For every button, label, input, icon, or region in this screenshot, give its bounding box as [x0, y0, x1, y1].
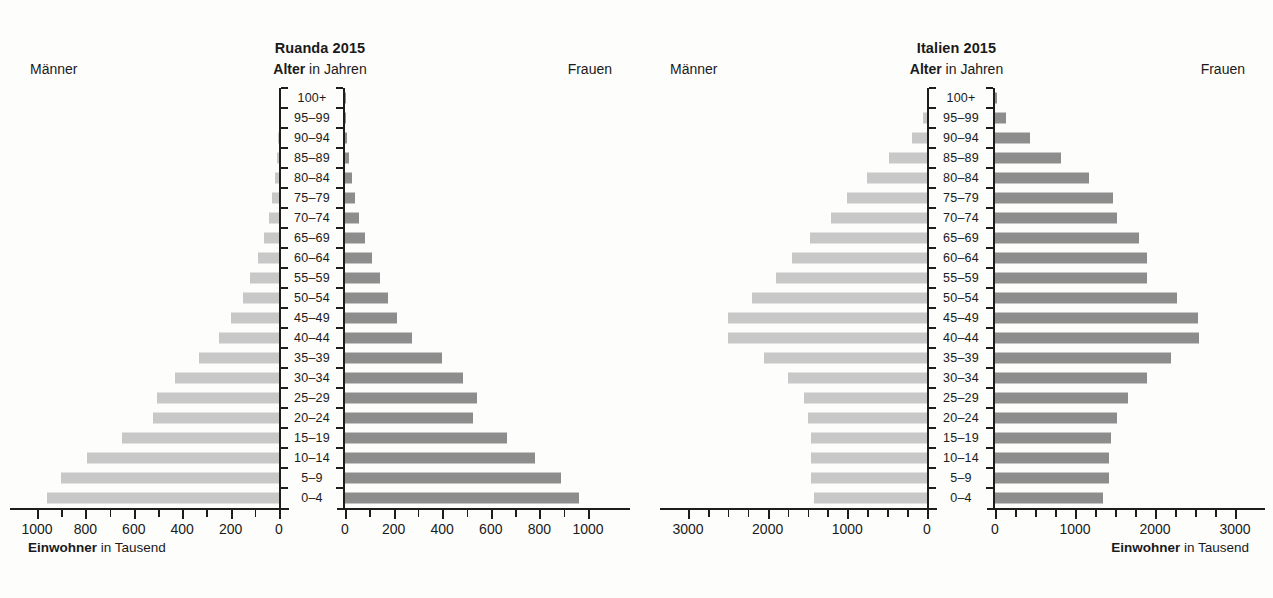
men-bar	[157, 393, 279, 404]
men-bar	[776, 273, 927, 284]
age-label-cell: 40–44	[929, 328, 993, 348]
age-label: 45–49	[943, 311, 979, 325]
right-x-axis-labels: 02004006008001000	[0, 521, 640, 541]
age-label: 45–49	[294, 311, 330, 325]
age-label-cell: 100+	[929, 88, 993, 108]
bar-row	[345, 428, 640, 448]
bar-row	[345, 168, 640, 188]
women-bar	[995, 353, 1171, 364]
men-bar	[175, 373, 279, 384]
age-tick-right	[336, 107, 343, 109]
bar-row	[345, 328, 640, 348]
bar-row	[0, 348, 279, 368]
age-label: 30–34	[294, 371, 330, 385]
bar-row	[345, 248, 640, 268]
women-bar	[345, 193, 355, 204]
age-label-cell: 50–54	[281, 288, 343, 308]
age-label-cell: 0–4	[929, 488, 993, 508]
age-tick-right	[986, 327, 993, 329]
women-bar	[995, 393, 1128, 404]
age-tick-left	[929, 367, 936, 369]
bar-row	[0, 208, 279, 228]
bar-row	[995, 408, 1273, 428]
age-label: 55–59	[294, 271, 330, 285]
men-side-label: Männer	[30, 61, 77, 77]
age-tick-right	[986, 107, 993, 109]
men-bar	[811, 473, 927, 484]
bar-row	[345, 408, 640, 428]
women-bars-panel	[345, 88, 640, 508]
x-tick-label: 2000	[1139, 521, 1170, 537]
women-bar	[345, 373, 463, 384]
bar-row	[0, 148, 279, 168]
men-bar	[728, 313, 927, 324]
age-label: 60–64	[294, 251, 330, 265]
age-label: 95–99	[943, 111, 979, 125]
age-label-cell: 25–29	[281, 388, 343, 408]
bar-row	[0, 468, 279, 488]
age-label: 80–84	[943, 171, 979, 185]
bar-row	[345, 228, 640, 248]
bar-row	[995, 128, 1273, 148]
age-tick-left	[929, 487, 936, 489]
age-tick-right	[336, 227, 343, 229]
age-label: 75–79	[294, 191, 330, 205]
age-tick-right	[986, 187, 993, 189]
age-tick-right	[986, 267, 993, 269]
x-tick-label: 200	[382, 521, 405, 537]
age-label-cell: 10–14	[929, 448, 993, 468]
men-bar	[250, 273, 279, 284]
men-bar	[243, 293, 279, 304]
age-tick-right	[986, 127, 993, 129]
age-tick-right	[986, 287, 993, 289]
men-bar	[889, 153, 927, 164]
age-tick-right	[336, 287, 343, 289]
women-bar	[995, 433, 1111, 444]
age-tick-right	[336, 487, 343, 489]
bar-row	[640, 408, 927, 428]
age-tick-right	[336, 207, 343, 209]
age-label-cell: 30–34	[929, 368, 993, 388]
age-tick-right	[336, 187, 343, 189]
age-label-cell: 20–24	[929, 408, 993, 428]
women-axis-line	[993, 88, 995, 508]
age-label-cell: 20–24	[281, 408, 343, 428]
subtitle-bold: Alter	[910, 61, 942, 77]
age-label-cell: 25–29	[929, 388, 993, 408]
age-label-cell: 5–9	[281, 468, 343, 488]
women-bar	[345, 113, 346, 124]
bar-row	[0, 268, 279, 288]
age-tick-left	[929, 147, 936, 149]
age-tick-right	[336, 427, 343, 429]
bar-row	[995, 368, 1273, 388]
women-bar	[345, 213, 359, 224]
age-tick-left	[281, 427, 288, 429]
age-label-cell: 95–99	[929, 108, 993, 128]
age-tick-left	[929, 87, 936, 89]
bar-row	[995, 208, 1273, 228]
x-tick-label: 400	[431, 521, 454, 537]
age-label: 5–9	[301, 471, 322, 485]
bar-row	[345, 488, 640, 508]
age-label: 20–24	[943, 411, 979, 425]
age-tick-left	[281, 227, 288, 229]
women-bar	[995, 153, 1061, 164]
bar-row	[995, 168, 1273, 188]
bar-row	[0, 188, 279, 208]
age-label-cell: 75–79	[281, 188, 343, 208]
bar-row	[640, 368, 927, 388]
age-tick-right	[336, 127, 343, 129]
women-bar	[345, 393, 477, 404]
bar-row	[640, 248, 927, 268]
women-bar	[995, 333, 1199, 344]
women-bar	[995, 93, 997, 104]
bar-row	[640, 348, 927, 368]
age-label: 90–94	[294, 131, 330, 145]
age-tick-left	[929, 427, 936, 429]
caption-bold: Einwohner	[28, 540, 97, 555]
age-tick-right	[986, 467, 993, 469]
bar-row	[345, 148, 640, 168]
age-tick-left	[281, 187, 288, 189]
age-tick-left	[281, 127, 288, 129]
age-label-cell: 60–64	[281, 248, 343, 268]
